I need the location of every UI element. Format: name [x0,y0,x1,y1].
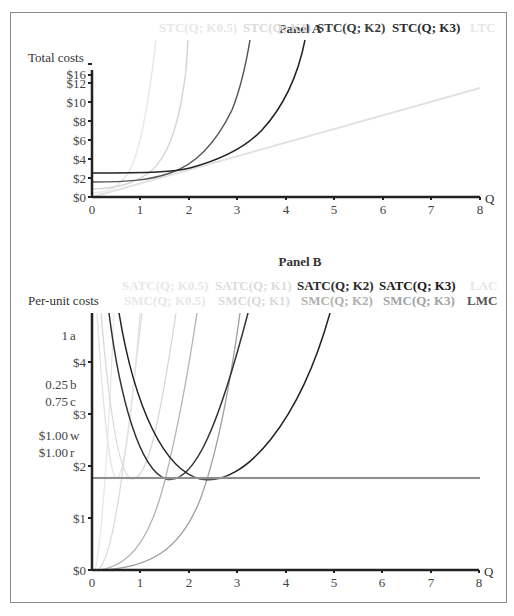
legend-stc-k1: STC(Q; K1) [243,20,311,35]
panel-a-legend: STC(Q; K0.5) STC(Q; K1) STC(Q; K2) STC(Q… [159,20,496,35]
legend-satc-k05: SATC(Q; K0.5) [122,278,208,293]
panel-a-curves [92,40,480,197]
svg-text:7: 7 [428,575,435,590]
svg-text:$3: $3 [73,407,86,422]
svg-text:6: 6 [380,202,387,217]
svg-text:1: 1 [137,202,144,217]
ltc-curve [92,88,480,197]
param-w-name: w [70,428,80,443]
panel-b-legend-row1: SATC(Q; K0.5) SATC(Q; K1) SATC(Q; K2) SA… [122,278,497,293]
svg-text:2: 2 [186,202,193,217]
param-a-name: a [70,328,76,343]
legend-ltc: LTC [470,20,496,35]
panel-b: Panel B Per-unit costs SATC(Q; K0.5) SAT… [28,254,497,590]
svg-text:$16: $16 [67,67,87,82]
svg-text:0: 0 [89,575,96,590]
panel-a: Panel A Total costs STC(Q; K0.5) STC(Q; … [28,20,496,217]
panel-b-x-ticks: 0 1 2 3 4 5 6 7 8 [89,575,483,590]
panel-a-x-label: Q [485,191,495,206]
svg-text:$4: $4 [73,152,87,167]
panel-b-legend-row2: SMC(Q; K0.5) SMC(Q; K1) SMC(Q; K2) SMC(Q… [124,293,497,308]
svg-text:$0: $0 [73,563,86,578]
svg-text:$8: $8 [73,114,86,129]
stc-k1-curve [92,40,188,189]
legend-stc-k2: STC(Q; K2) [317,20,385,35]
svg-text:$1: $1 [73,511,86,526]
svg-text:8: 8 [477,202,484,217]
svg-text:4: 4 [283,575,290,590]
svg-text:5: 5 [331,575,338,590]
param-r-name: r [70,445,75,460]
svg-text:6: 6 [379,575,386,590]
panel-a-axes: $0 $2 $4 $6 $8 $10 $12 $14 $16 0 1 2 3 4… [67,64,496,217]
svg-text:5: 5 [331,202,338,217]
svg-text:$6: $6 [73,133,87,148]
legend-smc-k3: SMC(Q; K3) [383,293,455,308]
svg-text:$10: $10 [67,95,87,110]
param-a-value: 1 [62,328,69,343]
param-c-value: 0.75 [45,394,68,409]
svg-text:$2: $2 [73,459,86,474]
svg-text:1: 1 [137,575,144,590]
stc-k2-curve [92,40,250,182]
legend-lac: LAC [470,278,497,293]
svg-text:$0: $0 [73,190,86,205]
legend-smc-k05: SMC(Q; K0.5) [124,293,206,308]
panel-b-title: Panel B [279,254,322,269]
chart-canvas: Panel A Total costs STC(Q; K0.5) STC(Q; … [0,0,514,616]
panel-b-curves [92,313,480,570]
legend-satc-k2: SATC(Q; K2) [297,278,374,293]
panel-a-y-label: Total costs [28,50,84,65]
svg-text:3: 3 [234,575,241,590]
legend-smc-k1: SMC(Q; K1) [218,293,290,308]
svg-text:0: 0 [89,202,96,217]
stc-k3-curve [92,40,305,173]
svg-text:7: 7 [428,202,435,217]
satc-k3-curve [119,313,330,480]
param-r-value: $1.00 [39,445,68,460]
param-w-value: $1.00 [39,428,68,443]
legend-satc-k3: SATC(Q; K3) [379,278,456,293]
svg-text:$2: $2 [73,171,86,186]
legend-stc-k3: STC(Q; K3) [392,20,460,35]
legend-lmc: LMC [467,293,497,308]
panel-b-y-label: Per-unit costs [28,293,99,308]
legend-stc-k05: STC(Q; K0.5) [159,20,237,35]
svg-text:3: 3 [234,202,241,217]
svg-text:2: 2 [186,575,193,590]
legend-satc-k1: SATC(Q; K1) [215,278,292,293]
svg-text:$4: $4 [73,355,87,370]
param-b-value: 0.25 [45,377,68,392]
panel-a-x-ticks: 0 1 2 3 4 5 6 7 8 [89,202,484,217]
svg-text:4: 4 [283,202,290,217]
legend-smc-k2: SMC(Q; K2) [301,293,373,308]
svg-text:8: 8 [476,575,483,590]
stc-k05-curve [92,40,156,193]
parameter-list: 1 a 0.25 b 0.75 c $1.00 w $1.00 r [39,328,80,460]
param-b-name: b [70,377,77,392]
panel-b-x-label: Q [484,564,494,579]
panel-a-y-ticks: $0 $2 $4 $6 $8 $10 $12 $14 $16 [67,67,87,205]
